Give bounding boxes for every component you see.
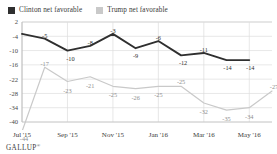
data-label-trump: -25 xyxy=(154,91,162,98)
x-axis-tick-label: Jan '16 xyxy=(149,131,168,139)
data-label-trump: -26 xyxy=(131,94,139,101)
trademark-symbol: ® xyxy=(37,143,41,148)
y-axis-tick-label: -34 xyxy=(0,104,18,111)
data-label-trump: -34 xyxy=(245,113,253,120)
legend-entry-clinton[interactable]: Clinton net favorable xyxy=(8,6,82,14)
data-label-trump: -21 xyxy=(86,82,94,89)
legend-entry-trump[interactable]: Trump net favorable xyxy=(96,6,168,14)
legend-swatch-icon-trump xyxy=(96,7,103,14)
data-label-clinton: -8 xyxy=(88,39,93,46)
legend-label-clinton: Clinton net favorable xyxy=(19,6,82,14)
data-label-clinton: -10 xyxy=(66,55,74,62)
x-axis-tick-label: Mar '16 xyxy=(193,131,215,139)
series-line-trump xyxy=(22,67,272,130)
y-axis-tick-label: -16 xyxy=(0,61,18,68)
y-axis-tick-label: -22 xyxy=(0,76,18,83)
gallup-net-favorable-chart: Clinton net favorableTrump net favorable… xyxy=(0,0,277,154)
data-label-trump: -35 xyxy=(222,115,230,122)
y-axis-tick-label: -40 xyxy=(0,118,18,125)
y-axis-tick-label: -10 xyxy=(0,47,18,54)
data-label-clinton: -3 xyxy=(110,27,115,34)
data-label-clinton: -12 xyxy=(179,59,187,66)
source-attribution: GALLUP® xyxy=(6,141,41,153)
y-axis-tick-label: -28 xyxy=(0,90,18,97)
data-label-trump: -32 xyxy=(200,108,208,115)
data-label-trump: -17 xyxy=(41,60,49,67)
data-label-clinton: -14 xyxy=(223,64,231,71)
legend-label-trump: Trump net favorable xyxy=(107,6,168,14)
x-axis-tick-label: Sep '15 xyxy=(57,131,78,139)
x-axis-tick-label: Nov '15 xyxy=(102,131,124,139)
x-axis-tick-label: May '16 xyxy=(238,131,261,139)
data-label-clinton: -14 xyxy=(246,64,254,71)
data-label-clinton: -5 xyxy=(42,32,47,39)
chart-legend: Clinton net favorableTrump net favorable xyxy=(8,3,168,17)
data-label-clinton: -11 xyxy=(200,46,208,53)
data-label-trump: -25 xyxy=(109,91,117,98)
data-label-clinton: -6 xyxy=(156,34,161,41)
x-axis: Jul '15Sep '15Nov '15Jan '16Mar '16May '… xyxy=(0,130,277,142)
data-label-clinton: -9 xyxy=(133,52,138,59)
data-label-trump: -23 xyxy=(63,87,71,94)
data-label-trump: -27 xyxy=(270,83,277,90)
y-axis-tick-label: -4 xyxy=(0,33,18,40)
legend-swatch-icon-clinton xyxy=(8,7,15,14)
data-label-trump: -44 xyxy=(20,135,28,142)
gallup-brand: GALLUP xyxy=(6,144,37,152)
y-axis-tick-label: 2 xyxy=(0,18,18,25)
data-label-trump: -25 xyxy=(177,78,185,85)
